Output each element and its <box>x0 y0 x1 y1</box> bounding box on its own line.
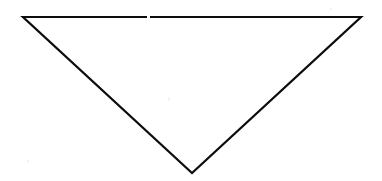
figure-canvas <box>0 0 382 181</box>
scan-gap-artifact <box>147 14 150 19</box>
inverted-triangle-shape <box>23 17 361 173</box>
triangle-drawing <box>0 0 382 181</box>
